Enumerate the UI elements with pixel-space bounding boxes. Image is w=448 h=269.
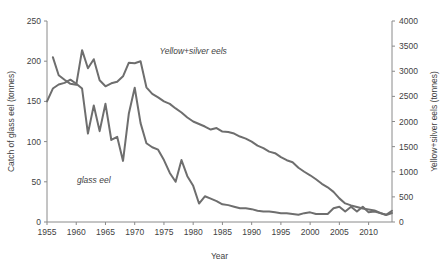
y-axis-right-tick-label: 1500 (399, 142, 418, 152)
y-axis-left-tick-label: 250 (27, 16, 41, 26)
y-axis-right-tick-label: 1000 (399, 167, 418, 177)
x-axis-tick-label: 1995 (271, 227, 290, 237)
x-axis-tick-label: 2000 (301, 227, 320, 237)
chart-figure: 0501001502002500500100015002000250030003… (0, 0, 448, 269)
x-axis-tick-label: 1955 (38, 227, 57, 237)
x-axis-tick-label: 2005 (330, 227, 349, 237)
line-chart: 0501001502002500500100015002000250030003… (0, 0, 448, 269)
series-annotation-yellow-silver-eels: Yellow+silver eels (160, 46, 228, 56)
series-annotation-glass-eel: glass eel (77, 175, 112, 185)
y-axis-left-tick-label: 50 (32, 177, 42, 187)
y-axis-right-tick-label: 500 (399, 192, 413, 202)
x-axis-tick-label: 1965 (96, 227, 115, 237)
series-line-yellow-silver-eels (53, 50, 392, 215)
x-axis-title: Year (211, 251, 228, 261)
y-axis-right-tick-label: 2500 (399, 91, 418, 101)
y-axis-right-title: Yellow+silver eels (tonnes) (429, 71, 439, 172)
series-group (47, 50, 392, 215)
y-axis-left-tick-label: 100 (27, 137, 41, 147)
y-axis-right-tick-label: 3000 (399, 66, 418, 76)
x-axis-tick-label: 1990 (242, 227, 261, 237)
x-axis-tick-label: 2010 (359, 227, 378, 237)
x-axis-tick-label: 1985 (213, 227, 232, 237)
x-axis-tick-label: 1970 (125, 227, 144, 237)
x-axis-tick-label: 1960 (67, 227, 86, 237)
y-axis-right-tick-label: 0 (399, 217, 404, 227)
y-axis-left-title: Catch of glass eel (tonnes) (6, 71, 16, 172)
y-axis-left-tick-label: 150 (27, 96, 41, 106)
x-axis-tick-label: 1980 (184, 227, 203, 237)
y-axis-right-tick-label: 4000 (399, 16, 418, 26)
x-axis-tick-label: 1975 (154, 227, 173, 237)
y-axis-left-tick-label: 0 (36, 217, 41, 227)
series-line-glass-eel (47, 80, 392, 215)
y-axis-right-tick-label: 2000 (399, 117, 418, 127)
y-axis-left-tick-label: 200 (27, 56, 41, 66)
y-axis-right-tick-label: 3500 (399, 41, 418, 51)
